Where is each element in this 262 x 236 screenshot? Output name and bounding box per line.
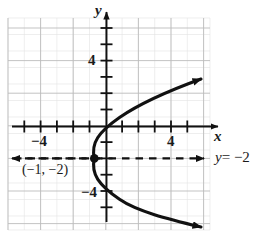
coordinate-plane-svg — [0, 0, 262, 236]
parabola-lower-branch — [94, 158, 201, 227]
axis-of-symmetry-label-value: = −2 — [222, 149, 250, 165]
y-tick-label-pos4: 4 — [88, 53, 96, 68]
vertex-point-marker — [90, 154, 99, 163]
graph-figure: x y −4 4 4 −4 (−1, −2) y= −2 — [0, 0, 262, 236]
y-axis-label: y — [95, 3, 102, 18]
x-axis-label: x — [214, 129, 222, 144]
axis-of-symmetry-label: y= −2 — [215, 150, 250, 165]
y-tick-label-neg4: −4 — [81, 185, 97, 200]
parabola-upper-branch — [94, 79, 201, 158]
x-tick-label-neg4: −4 — [31, 134, 47, 149]
vertex-point-label: (−1, −2) — [22, 163, 68, 177]
axis-of-symmetry-label-variable: y — [215, 149, 222, 165]
x-tick-label-pos4: 4 — [167, 134, 175, 149]
